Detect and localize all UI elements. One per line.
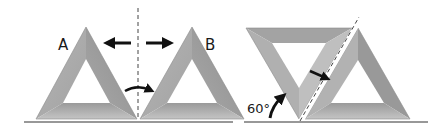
symmetry-diagram: A B 60° [0, 0, 443, 131]
label-a: A [58, 36, 69, 54]
label-b: B [205, 36, 215, 54]
angle-label: 60° [247, 101, 270, 116]
triangle-a [36, 27, 137, 119]
triangle-b [140, 27, 244, 119]
curved-arrow-rotate [125, 87, 150, 91]
angle-arrow [270, 97, 282, 118]
